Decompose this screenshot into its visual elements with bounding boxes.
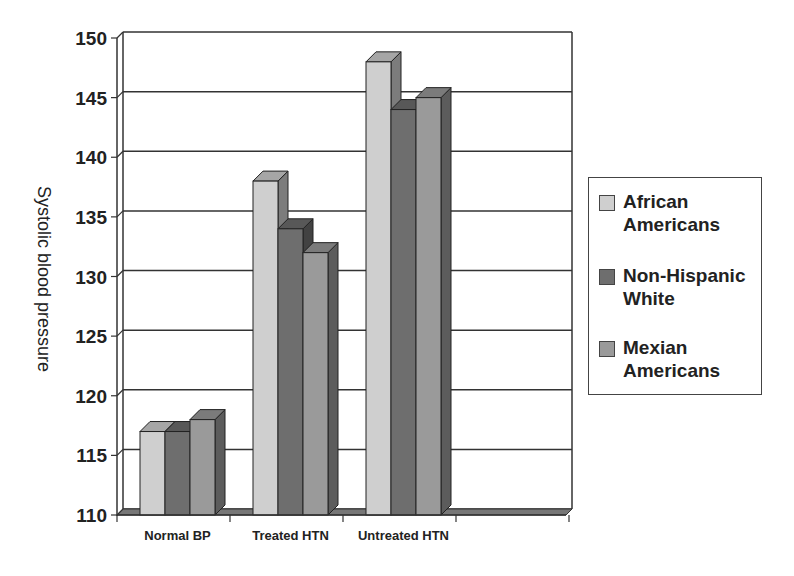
- legend-label: Mexian Americans: [623, 336, 753, 382]
- bars: [140, 52, 451, 515]
- legend-swatch: [599, 341, 615, 357]
- y-axis-label: Systolic blood pressure: [34, 186, 54, 372]
- svg-text:Treated HTN: Treated HTN: [252, 528, 329, 543]
- bar: [416, 88, 451, 515]
- legend-item-mexian-americans: Mexian Americans: [599, 336, 753, 382]
- svg-text:Normal BP: Normal BP: [144, 528, 211, 543]
- bar: [190, 410, 225, 515]
- svg-text:130: 130: [75, 267, 107, 288]
- legend-item-non-hispanic-white: Non-Hispanic White: [599, 264, 753, 310]
- svg-text:115: 115: [76, 445, 107, 466]
- svg-text:120: 120: [75, 386, 107, 407]
- bar: [303, 243, 338, 515]
- legend: African Americans Non-Hispanic White Mex…: [588, 177, 762, 395]
- legend-swatch: [599, 195, 615, 211]
- legend-label: Non-Hispanic White: [623, 264, 753, 310]
- svg-text:135: 135: [75, 207, 107, 228]
- legend-item-african-americans: African Americans: [599, 190, 753, 236]
- legend-swatch: [599, 269, 615, 285]
- svg-text:125: 125: [75, 326, 107, 347]
- legend-label: African Americans: [623, 190, 753, 236]
- svg-text:145: 145: [75, 88, 107, 109]
- svg-text:140: 140: [75, 147, 107, 168]
- svg-text:150: 150: [75, 28, 107, 49]
- svg-text:110: 110: [76, 505, 107, 526]
- svg-text:Untreated HTN: Untreated HTN: [358, 528, 449, 543]
